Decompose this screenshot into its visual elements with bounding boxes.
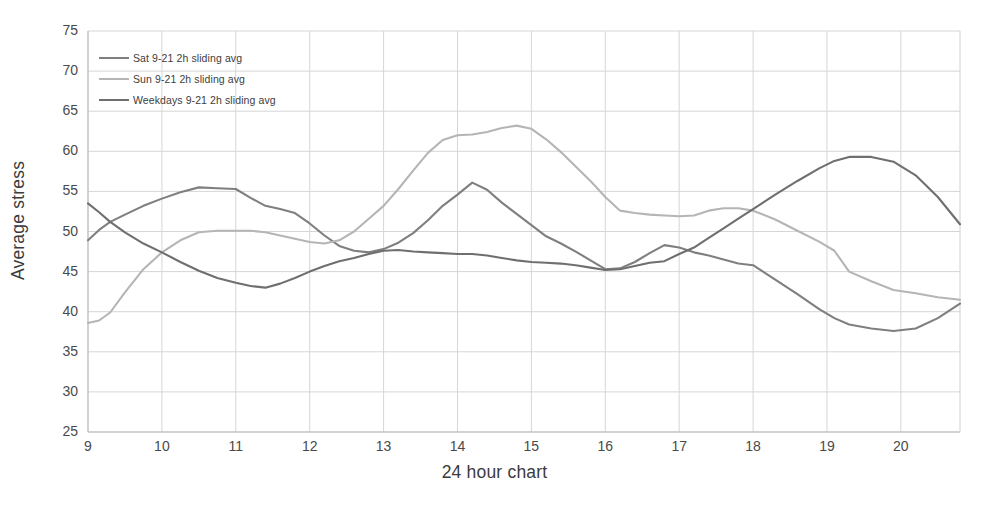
chart-legend: Sat 9-21 2h sliding avgSun 9-21 2h slidi… — [99, 47, 276, 110]
series-line-1 — [88, 126, 960, 323]
legend-swatch-icon — [99, 99, 129, 101]
legend-swatch-icon — [99, 78, 129, 80]
legend-item-1: Sun 9-21 2h sliding avg — [99, 68, 276, 89]
legend-item-label: Sun 9-21 2h sliding avg — [133, 73, 245, 85]
x-axis-title: 24 hour chart — [0, 462, 989, 483]
legend-item-0: Sat 9-21 2h sliding avg — [99, 47, 276, 68]
legend-swatch-icon — [99, 57, 129, 59]
series-line-0 — [88, 183, 960, 331]
chart-container: Average stress 7570656055504540353025 91… — [0, 0, 989, 509]
series-line-2 — [88, 157, 960, 288]
x-axis-title-text: 24 hour chart — [442, 462, 548, 482]
legend-item-2: Weekdays 9-21 2h sliding avg — [99, 89, 276, 110]
legend-item-label: Sat 9-21 2h sliding avg — [133, 52, 242, 64]
legend-item-label: Weekdays 9-21 2h sliding avg — [133, 94, 276, 106]
